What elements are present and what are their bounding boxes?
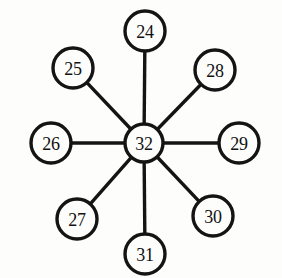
node-label: 28	[206, 61, 224, 81]
graph-canvas: 242526272829303132	[0, 0, 282, 278]
graph-node[interactable]: 29	[219, 123, 259, 163]
graph-edge	[156, 83, 202, 130]
graph-node[interactable]: 24	[125, 11, 165, 51]
graph-edge	[156, 156, 200, 203]
node-label: 26	[42, 134, 60, 154]
graph-node[interactable]: 25	[53, 48, 93, 88]
star-graph-diagram: 242526272829303132	[0, 0, 282, 278]
graph-edge	[86, 81, 132, 130]
node-label: 31	[136, 245, 153, 265]
graph-node-center[interactable]: 32	[125, 124, 163, 162]
graph-edge	[89, 156, 132, 205]
node-label: 32	[135, 134, 152, 154]
graph-node[interactable]: 27	[57, 199, 97, 239]
graph-edge	[144, 49, 145, 125]
node-label: 30	[204, 207, 222, 227]
graph-node[interactable]: 30	[193, 196, 233, 236]
graph-node[interactable]: 31	[125, 234, 165, 274]
node-label: 24	[136, 22, 154, 42]
nodes-group: 242526272829303132	[31, 11, 259, 274]
graph-edge	[144, 160, 145, 235]
node-label: 29	[230, 134, 248, 154]
node-label: 25	[64, 59, 82, 79]
graph-node[interactable]: 26	[31, 123, 71, 163]
graph-node[interactable]: 28	[195, 50, 235, 90]
node-label: 27	[68, 210, 86, 230]
